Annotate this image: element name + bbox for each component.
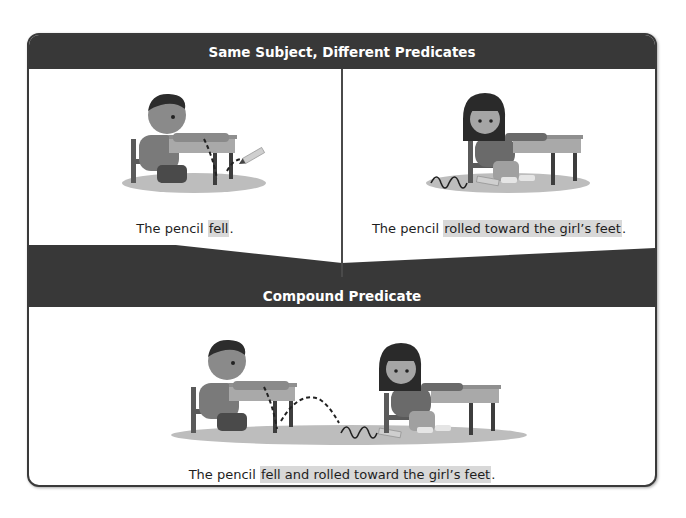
caption-rolled: The pencil rolled toward the girl’s feet… (343, 221, 655, 236)
section-title-bottom: Compound Predicate (29, 285, 655, 307)
boy-desk-illustration-icon (109, 79, 269, 199)
girl-desk-illustration-icon (413, 79, 593, 199)
panel-compound: The pencil fell and rolled toward the gi… (29, 307, 655, 485)
panel-rolled: The pencil rolled toward the girl’s feet… (343, 69, 655, 254)
predicate-highlight: fell (208, 220, 230, 237)
boy-and-girl-illustration-icon (169, 321, 529, 451)
section-title-top: Same Subject, Different Predicates (29, 35, 655, 69)
caption-fell: The pencil fell. (29, 221, 341, 236)
predicate-highlight: fell and rolled toward the girl’s feet (260, 466, 491, 483)
grammar-card: Same Subject, Different Predicates (27, 33, 657, 487)
panel-fell: The pencil fell. (29, 69, 341, 254)
predicate-highlight: rolled toward the girl’s feet (443, 220, 622, 237)
caption-compound: The pencil fell and rolled toward the gi… (29, 467, 655, 482)
